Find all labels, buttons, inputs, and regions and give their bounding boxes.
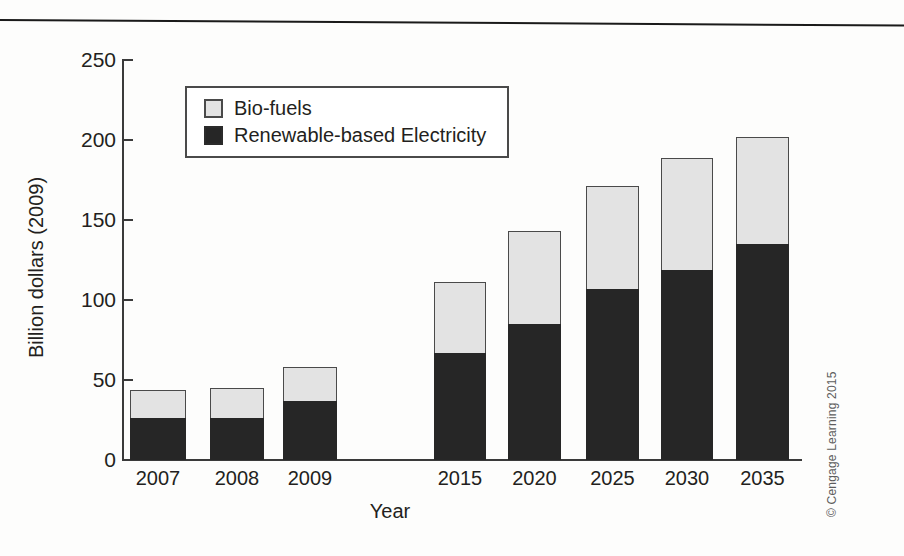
light-square-icon (204, 99, 223, 118)
legend-label: Renewable-based Electricity (234, 125, 486, 146)
y-tick-label-text: 50 (62, 369, 116, 390)
y-tick-mark (124, 59, 133, 61)
legend-item-renewable-electricity: Renewable-based Electricity (204, 122, 507, 149)
bar-segment-bio-fuels (586, 186, 639, 289)
bar-segment-bio-fuels (661, 158, 713, 271)
x-tick-label-2008: 2008 (197, 466, 277, 490)
bar-2007 (130, 390, 186, 460)
y-tick-label-text: 200 (62, 129, 116, 150)
copyright-credit: © Cengage Learning 2015 (825, 337, 839, 517)
x-tick-label-2025: 2025 (573, 466, 653, 490)
y-tick-label: 200 (56, 129, 116, 150)
legend-item-bio-fuels: Bio-fuels (204, 95, 507, 122)
bar-segment-bio-fuels (508, 231, 561, 325)
bar-segment-bio-fuels (736, 137, 789, 245)
bar-segment-bio-fuels (434, 282, 486, 353)
y-tick-label: 0 (56, 449, 116, 470)
bar-2035 (736, 137, 789, 460)
bar-segment-renewable-electricity (736, 244, 789, 460)
bar-segment-renewable-electricity (661, 270, 713, 460)
dark-square-icon (204, 126, 223, 145)
y-tick-label-text: 0 (62, 449, 116, 470)
x-axis-title: Year (330, 500, 450, 523)
x-tick-label-2009: 2009 (270, 466, 350, 490)
bar-segment-renewable-electricity (586, 289, 639, 460)
y-axis-line (122, 59, 124, 461)
y-tick-mark (124, 299, 133, 301)
chart-legend: Bio-fuels Renewable-based Electricity (185, 86, 509, 158)
bar-segment-bio-fuels (210, 388, 264, 419)
y-axis-title: Billion dollars (2009) (25, 138, 48, 398)
y-tick-label: 150 (56, 209, 116, 230)
y-tick-mark (124, 379, 133, 381)
y-tick-label: 250 (56, 49, 116, 70)
bar-segment-renewable-electricity (508, 324, 561, 460)
stacked-bar-chart: 050100150200250 Billion dollars (2009) Y… (0, 0, 904, 556)
bar-segment-renewable-electricity (283, 401, 337, 460)
legend-label: Bio-fuels (234, 98, 312, 119)
x-tick-label-2030: 2030 (647, 466, 727, 490)
bar-2008 (210, 388, 264, 460)
y-tick-mark (124, 219, 133, 221)
bar-segment-renewable-electricity (130, 418, 186, 460)
x-tick-label-2007: 2007 (118, 466, 198, 490)
x-tick-label-2015: 2015 (420, 466, 500, 490)
bar-2030 (661, 158, 713, 460)
bar-2025 (586, 186, 639, 460)
x-tick-label-2035: 2035 (723, 466, 803, 490)
x-tick-label-2020: 2020 (495, 466, 575, 490)
y-tick-label: 100 (56, 289, 116, 310)
y-tick-label-text: 100 (62, 289, 116, 310)
bar-segment-renewable-electricity (434, 353, 486, 460)
bar-segment-bio-fuels (283, 367, 337, 402)
y-tick-label-text: 250 (62, 49, 116, 70)
y-tick-label-text: 150 (62, 209, 116, 230)
bar-2020 (508, 231, 561, 460)
y-tick-mark (124, 139, 133, 141)
bar-2009 (283, 367, 337, 460)
bar-2015 (434, 282, 486, 460)
bar-segment-renewable-electricity (210, 418, 264, 460)
y-tick-label: 50 (56, 369, 116, 390)
bar-segment-bio-fuels (130, 390, 186, 420)
